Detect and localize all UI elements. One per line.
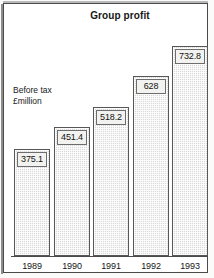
bar-value-1990: 451.4 bbox=[57, 130, 87, 145]
bar-1991 bbox=[93, 107, 129, 256]
tick-label-1990: 1990 bbox=[54, 260, 90, 273]
tick-label-1989: 1989 bbox=[14, 260, 50, 273]
bar-1993 bbox=[172, 46, 208, 256]
bar-1990 bbox=[54, 127, 90, 256]
bar-value-1992: 628 bbox=[136, 79, 166, 94]
bar-1992 bbox=[133, 76, 169, 256]
bar-value-1991: 518.2 bbox=[96, 110, 126, 125]
bar-value-1993: 732.8 bbox=[175, 49, 205, 64]
axis-baseline bbox=[11, 256, 208, 257]
plot-area: 375.11989451.41990518.219916281992732.81… bbox=[3, 4, 208, 273]
tick-label-1992: 1992 bbox=[133, 260, 169, 273]
bar-value-1989: 375.1 bbox=[17, 152, 47, 167]
tick-label-1991: 1991 bbox=[93, 260, 129, 273]
chart-figure: Group profit Before tax £million 375.119… bbox=[0, 0, 214, 278]
tick-label-1993: 1993 bbox=[172, 260, 208, 273]
